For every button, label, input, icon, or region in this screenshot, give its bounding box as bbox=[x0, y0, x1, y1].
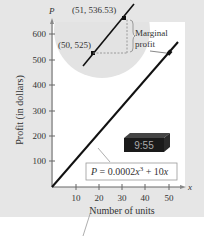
x-tick-label: 10 bbox=[72, 193, 82, 203]
x-tick-label: 40 bbox=[141, 193, 151, 203]
profit-label: profit bbox=[135, 39, 155, 49]
x-axis-title: Number of units bbox=[89, 205, 155, 216]
y-tick-label: 200 bbox=[33, 131, 47, 141]
clock-display: 9:55 bbox=[134, 140, 154, 151]
y-tick-label: 300 bbox=[33, 106, 47, 116]
y-axis-symbol: P bbox=[48, 6, 55, 16]
point-50-label: (50, 525) bbox=[58, 40, 91, 50]
x-tick-label: 50 bbox=[165, 193, 175, 203]
x-tick-label: 20 bbox=[95, 193, 105, 203]
profit-chart: 600 500 400 300 200 100 10 20 30 40 50 P… bbox=[0, 0, 204, 236]
x-axis-symbol: x bbox=[187, 182, 192, 192]
y-tick-label: 100 bbox=[33, 156, 47, 166]
y-tick-label: 500 bbox=[33, 55, 47, 65]
alarm-clock-icon: 9:55 bbox=[124, 133, 170, 152]
marginal-label: Marginal bbox=[135, 28, 168, 38]
x-tick-label: 30 bbox=[118, 193, 128, 203]
y-axis-title: Profit (in dollars) bbox=[14, 75, 26, 144]
point-51-marker bbox=[122, 16, 126, 20]
point-51-label: (51, 536.53) bbox=[72, 5, 116, 15]
y-tick-label: 600 bbox=[33, 29, 47, 39]
equation-label: P = 0.0002x3 + 10x bbox=[90, 165, 169, 177]
y-tick-label: 400 bbox=[33, 80, 47, 90]
